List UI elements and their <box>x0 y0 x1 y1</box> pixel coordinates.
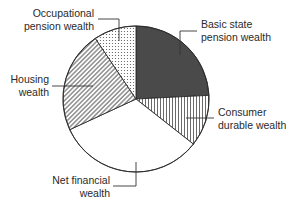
pie-slice-basic-state-pension-wealth <box>136 26 209 99</box>
slice-label: Consumerdurable wealth <box>218 106 286 131</box>
slice-label: Net financialwealth <box>52 174 110 199</box>
pie-slices <box>63 26 209 172</box>
slice-label: Basic statepension wealth <box>201 18 271 43</box>
slice-label: Housingwealth <box>10 73 49 98</box>
slice-label: Occupationalpension wealth <box>24 7 94 32</box>
pie-chart: Basic statepension wealthConsumerdurable… <box>0 0 293 208</box>
